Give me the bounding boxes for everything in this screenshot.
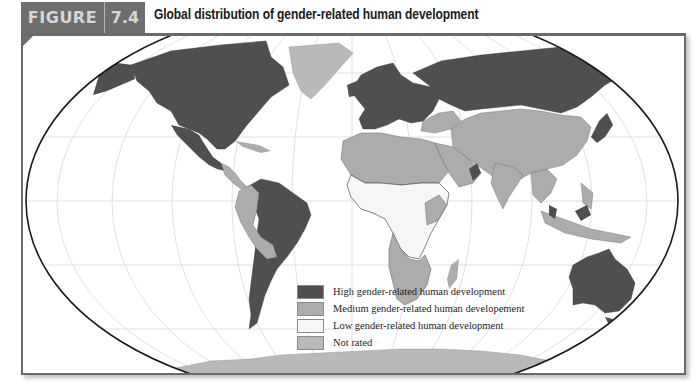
legend-item-high: High gender-related human development <box>297 283 557 300</box>
legend-swatch-not-rated <box>297 336 324 350</box>
legend-swatch-medium <box>297 302 324 316</box>
legend-label-low: Low gender-related human development <box>333 320 503 331</box>
figure-title: Global distribution of gender-related hu… <box>154 6 478 22</box>
figure-label: FIGURE 7.4 <box>21 2 145 33</box>
corner-notch <box>23 36 33 46</box>
map-legend: High gender-related human development Me… <box>297 283 557 351</box>
legend-label-medium: Medium gender-related human developement <box>333 303 524 314</box>
figure-word: FIGURE <box>21 2 105 33</box>
legend-item-not-rated: Not rated <box>297 334 557 351</box>
legend-item-low: Low gender-related human development <box>297 317 557 334</box>
legend-item-medium: Medium gender-related human developement <box>297 300 557 317</box>
legend-label-not-rated: Not rated <box>333 337 372 348</box>
legend-swatch-low <box>297 319 324 333</box>
legend-label-high: High gender-related human development <box>333 286 505 297</box>
figure-number: 7.4 <box>105 2 145 33</box>
region-new-zealand <box>651 309 671 339</box>
legend-swatch-high <box>297 285 324 299</box>
